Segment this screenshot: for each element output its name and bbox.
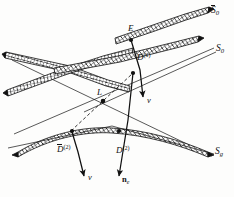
label-vector-nu-lower: ν [88, 173, 92, 182]
node-D2bar [70, 129, 74, 133]
label-surface-top-base: S [211, 6, 216, 16]
node-D1 [131, 71, 135, 75]
label-detector-top: D(1) [137, 52, 151, 62]
label-surface-middle-sub: 0 [221, 47, 224, 54]
label-surface-top-sub: 0 [216, 9, 219, 16]
band-bottom-arc [18, 128, 208, 157]
label-point-emitter: E [128, 24, 134, 33]
band-tip-right-s0 [198, 36, 204, 42]
label-detector-bottom-left: D(2) [57, 144, 71, 154]
label-surface-bottom: Sg [215, 147, 223, 158]
node-E [129, 38, 133, 42]
label-surface-top: S0 [211, 6, 219, 17]
arrow-D2bar-to-nu [72, 132, 84, 176]
label-detector-bottom-right: D(2) [116, 145, 130, 155]
label-vector-normal: ne [122, 175, 129, 186]
label-detector-bottom-left-sup: (2) [64, 144, 71, 150]
label-detector-bottom-left-base: D [57, 145, 64, 154]
label-surface-bottom-sub: g [220, 150, 223, 157]
label-vector-normal-sub: e [127, 179, 130, 185]
diagram-svg [0, 0, 234, 197]
band-middle-right [54, 36, 199, 74]
node-D2 [117, 129, 121, 133]
band-tip-left-a [2, 52, 6, 58]
label-point-source: L [97, 88, 102, 97]
label-vector-nu-upper: ν [147, 96, 151, 105]
node-L [101, 99, 106, 104]
label-detector-bottom-right-sup: (2) [123, 145, 130, 151]
band-upper-left-up [7, 48, 133, 96]
dashed-L-to-D2bar [72, 102, 102, 130]
figure-canvas: S0 S0 Sg E L D(1) D(2) D(2) ν ν ne [0, 0, 234, 197]
band-tip-arc-left [12, 152, 18, 157]
label-detector-top-sup: (1) [144, 52, 151, 58]
band-tip-left-b [3, 90, 8, 96]
label-surface-middle: S0 [216, 44, 224, 55]
